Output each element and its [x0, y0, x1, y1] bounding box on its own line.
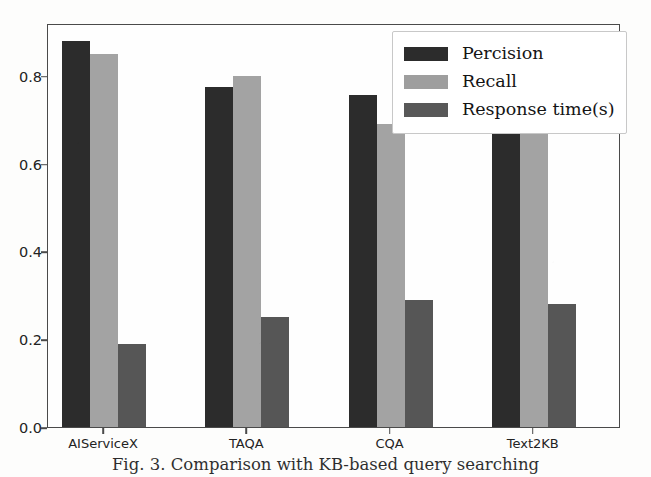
x-tick-mark — [389, 428, 391, 434]
legend-label-recall: Recall — [462, 73, 517, 91]
bar — [349, 95, 377, 427]
bar — [90, 54, 118, 427]
legend-swatch-percision — [404, 47, 448, 61]
bar — [62, 41, 90, 427]
legend-item: Recall — [404, 68, 616, 96]
figure-page: 0.00.20.40.60.8 AIServiceXTAQACQAText2KB… — [0, 0, 651, 477]
y-tick-label: 0.8 — [0, 69, 42, 85]
x-tick-label: Text2KB — [507, 436, 559, 451]
bar — [520, 120, 548, 427]
y-tick-label: 0.0 — [0, 420, 42, 436]
legend-item: Percision — [404, 40, 616, 68]
legend-item: Response time(s) — [404, 96, 616, 124]
x-tick-label: CQA — [375, 436, 403, 451]
bar — [118, 344, 146, 427]
y-tick-label: 0.6 — [0, 157, 42, 173]
y-tick-label: 0.4 — [0, 244, 42, 260]
bar — [492, 120, 520, 427]
x-tick-label: TAQA — [229, 436, 264, 451]
x-tick-label: AIServiceX — [68, 436, 138, 451]
legend-label-response-time: Response time(s) — [462, 101, 615, 119]
x-tick-mark — [102, 428, 104, 434]
chart-legend: Percision Recall Response time(s) — [392, 31, 627, 134]
bar-group — [62, 25, 146, 427]
legend-swatch-recall — [404, 75, 448, 89]
legend-swatch-response-time — [404, 103, 448, 117]
x-tick-mark — [245, 428, 247, 434]
bar — [377, 124, 405, 427]
bar — [233, 76, 261, 427]
x-tick-mark — [532, 428, 534, 434]
bar-group — [205, 25, 289, 427]
bar — [261, 317, 289, 427]
y-tick-label: 0.2 — [0, 332, 42, 348]
bar — [405, 300, 433, 427]
figure-caption: Fig. 3. Comparison with KB-based query s… — [0, 455, 651, 474]
legend-label-percision: Percision — [462, 45, 544, 63]
bar-chart-figure: 0.00.20.40.60.8 AIServiceXTAQACQAText2KB… — [0, 0, 651, 446]
bar — [205, 87, 233, 427]
bar — [548, 304, 576, 427]
